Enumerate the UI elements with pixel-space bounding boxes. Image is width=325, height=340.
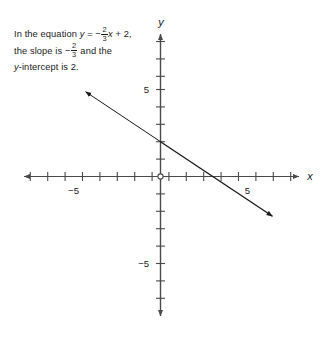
- plotted-line-upper-ray: [86, 92, 161, 142]
- x-tick-label-neg5: −5: [68, 185, 79, 196]
- x-axis-group: −5 5 x: [24, 170, 313, 196]
- x-tick-label-5: 5: [245, 185, 250, 196]
- x-axis-label: x: [306, 170, 313, 182]
- figure-root: In the equation y = −23x + 2, the slope …: [0, 0, 325, 340]
- plotted-line-group: [86, 92, 273, 217]
- coordinate-plane: −5 5 x 5: [0, 0, 325, 340]
- y-axis-label: y: [157, 16, 165, 28]
- y-tick-label-5: 5: [144, 84, 149, 95]
- y-axis-group: 5 −5 y: [138, 16, 165, 316]
- y-tick-label-neg5: −5: [138, 258, 149, 269]
- origin-marker: [158, 174, 163, 179]
